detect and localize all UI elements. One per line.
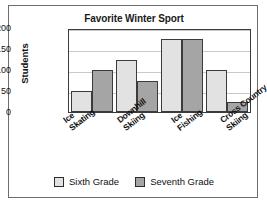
bar: [206, 70, 227, 112]
chart-frame: Favorite Winter Sport Students 050100150…: [8, 5, 258, 198]
y-tick-label: 50: [0, 87, 11, 96]
y-tick-label: 150: [0, 45, 11, 54]
y-axis-label: Students: [19, 29, 30, 99]
legend-swatch: [54, 177, 64, 187]
chart-legend: Sixth GradeSeventh Grade: [9, 176, 259, 187]
bar: [92, 70, 113, 112]
chart-title: Favorite Winter Sport: [9, 13, 259, 24]
y-tick-label: 200: [0, 24, 11, 33]
bar: [161, 39, 182, 113]
legend-label: Sixth Grade: [69, 176, 119, 187]
y-tick-label: 100: [0, 66, 11, 75]
y-tick-label: 0: [0, 108, 11, 117]
legend-item[interactable]: Seventh Grade: [135, 176, 214, 187]
legend-label: Seventh Grade: [150, 176, 214, 187]
bar-groups: [69, 30, 250, 112]
legend-item[interactable]: Sixth Grade: [54, 176, 119, 187]
bar-group: [161, 30, 203, 112]
plot-area: [68, 29, 251, 113]
legend-swatch: [135, 177, 145, 187]
bar-group: [71, 30, 113, 112]
